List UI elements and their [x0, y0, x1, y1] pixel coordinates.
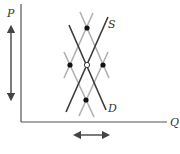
point-right [100, 62, 105, 67]
point-top [84, 25, 89, 30]
x-axis-label: Q [170, 116, 179, 129]
demand-shifted-right [80, 12, 109, 78]
supply-label: S [108, 18, 116, 31]
point-bottom [83, 97, 88, 102]
y-axis-label: P [6, 7, 15, 20]
demand-label: D [107, 102, 117, 115]
equilibrium-point [84, 62, 89, 67]
point-left [67, 62, 72, 67]
supply-demand-diagram: P Q S D [0, 0, 180, 154]
